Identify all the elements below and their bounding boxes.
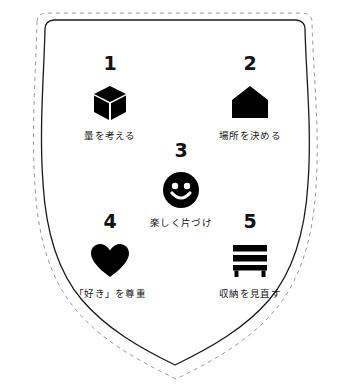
item-4-caption: 「好き」を尊重 bbox=[56, 289, 164, 299]
item-3-number: 3 bbox=[127, 141, 235, 160]
house-icon bbox=[196, 83, 304, 123]
cube-icon bbox=[56, 83, 164, 123]
item-2: 2 場所を決める bbox=[196, 54, 304, 141]
item-5: 5 収納を見直す bbox=[196, 212, 304, 299]
item-5-caption: 収納を見直す bbox=[196, 289, 304, 299]
item-4: 4 「好き」を尊重 bbox=[56, 212, 164, 299]
shelf-icon bbox=[196, 241, 304, 281]
item-1-number: 1 bbox=[56, 54, 164, 73]
item-1: 1 量を考える bbox=[56, 54, 164, 141]
item-4-number: 4 bbox=[56, 212, 164, 231]
item-1-caption: 量を考える bbox=[56, 131, 164, 141]
item-2-caption: 場所を決める bbox=[196, 131, 304, 141]
item-2-number: 2 bbox=[196, 54, 304, 73]
item-5-number: 5 bbox=[196, 212, 304, 231]
heart-icon bbox=[56, 241, 164, 281]
smiley-face-icon bbox=[127, 170, 235, 210]
infographic-canvas: 1 量を考える 2 場所を決める 3 bbox=[0, 0, 349, 392]
items-layer: 1 量を考える 2 場所を決める 3 bbox=[0, 0, 349, 392]
